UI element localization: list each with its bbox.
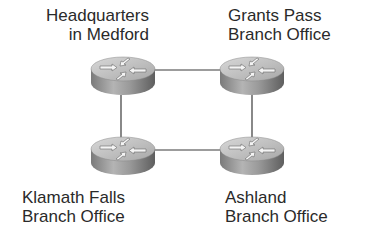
label-line: Branch Office bbox=[22, 207, 125, 226]
router-icon-as bbox=[219, 136, 285, 176]
label-klamath-falls: Klamath Falls Branch Office bbox=[22, 188, 125, 226]
label-headquarters-medford: Headquarters in Medford bbox=[22, 6, 149, 44]
router-icon-hq bbox=[90, 56, 156, 96]
label-line: in Medford bbox=[22, 25, 149, 44]
label-line: Klamath Falls bbox=[22, 188, 125, 207]
label-line: Branch Office bbox=[228, 25, 331, 44]
label-grants-pass: Grants Pass Branch Office bbox=[228, 6, 331, 44]
label-line: Headquarters bbox=[22, 6, 149, 25]
label-line: Ashland bbox=[225, 188, 328, 207]
label-line: Branch Office bbox=[225, 207, 328, 226]
label-line: Grants Pass bbox=[228, 6, 331, 25]
router-icon-kf bbox=[90, 136, 156, 176]
router-icon-gp bbox=[219, 56, 285, 96]
label-ashland: Ashland Branch Office bbox=[225, 188, 328, 226]
